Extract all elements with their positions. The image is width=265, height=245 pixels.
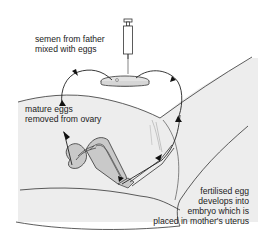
semen-label: semen from father mixed with eggs: [35, 34, 105, 54]
syringe: [124, 19, 133, 74]
fertilised-label-line1: fertilised egg: [200, 186, 249, 196]
fertilised-label-line3: embryo which is: [187, 206, 249, 216]
mature-eggs-label: mature eggs removed from ovary: [25, 104, 101, 124]
ivf-diagram: semen from father mixed with eggs mature…: [0, 0, 265, 245]
petri-dish: [101, 76, 149, 86]
semen-label-line1: semen from father: [35, 34, 105, 44]
fertilised-egg-label: fertilised egg develops into embryo whic…: [153, 186, 249, 226]
fertilised-label-line2: develops into: [198, 196, 249, 206]
fertilised-label-line4: placed in mother's uterus: [153, 216, 249, 226]
mature-eggs-label-line1: mature eggs: [25, 104, 73, 114]
mature-eggs-label-line2: removed from ovary: [25, 114, 101, 124]
semen-label-line2: mixed with eggs: [35, 44, 97, 54]
